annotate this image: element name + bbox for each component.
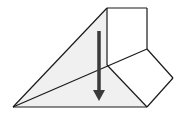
diagram-canvas <box>0 0 183 117</box>
